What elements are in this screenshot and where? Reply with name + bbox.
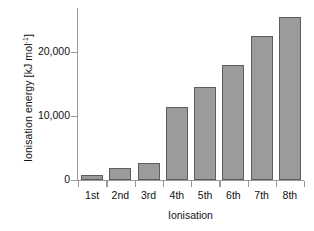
x-tick-label-8th: 8th (276, 189, 304, 201)
ionisation-energy-bar-chart: Ionisation energy [kJ mol-1] 20,000 10,0… (0, 0, 314, 231)
y-tick-mark-0 (71, 180, 77, 181)
plot-area (78, 8, 304, 180)
x-tick-label-1st: 1st (78, 189, 106, 201)
x-tick-label-4th: 4th (163, 189, 191, 201)
x-axis-title: Ionisation (77, 209, 304, 221)
y-tick-label-0: 0 (18, 173, 70, 185)
x-tick-mark-5 (219, 181, 220, 187)
x-tick-mark-1 (106, 181, 107, 187)
x-tick-mark-3 (163, 181, 164, 187)
x-tick-label-7th: 7th (248, 189, 276, 201)
bar-1st (81, 175, 103, 180)
x-tick-label-2nd: 2nd (106, 189, 134, 201)
bar-6th (222, 65, 244, 180)
bar-7th (251, 36, 273, 180)
x-tick-label-5th: 5th (191, 189, 219, 201)
x-tick-label-3rd: 3rd (135, 189, 163, 201)
x-tick-label-6th: 6th (219, 189, 247, 201)
x-tick-mark-0 (78, 181, 79, 187)
y-tick-label-20000: 20,000 (18, 45, 70, 57)
bar-4th (166, 107, 188, 180)
x-tick-mark-2 (135, 181, 136, 187)
x-tick-mark-4 (191, 181, 192, 187)
y-tick-labels: 20,000 10,000 0 (18, 0, 70, 231)
x-tick-mark-7 (276, 181, 277, 187)
x-tick-mark-8 (304, 181, 305, 187)
bar-8th (279, 17, 301, 180)
y-tick-mark-10000 (71, 116, 77, 117)
bar-5th (194, 87, 216, 180)
bar-2nd (109, 168, 131, 181)
bar-3rd (138, 163, 160, 181)
y-tick-mark-20000 (71, 52, 77, 53)
x-tick-mark-6 (248, 181, 249, 187)
y-tick-label-10000: 10,000 (18, 109, 70, 121)
